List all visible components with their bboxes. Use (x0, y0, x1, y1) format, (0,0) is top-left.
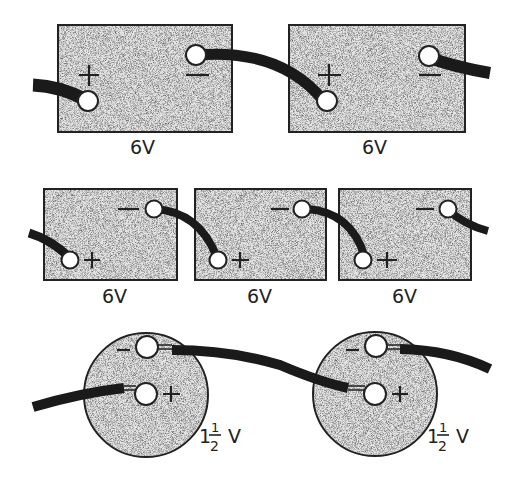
svg-text:2: 2 (210, 438, 219, 454)
terminal-minus-mid-1 (146, 201, 163, 218)
terminal-plus-bottom-1 (135, 383, 157, 405)
voltage-label: 6V (362, 136, 387, 158)
terminal-plus-mid-2 (210, 252, 227, 269)
battery-6v-top-2 (289, 25, 465, 132)
row-top: 6V 6V (33, 25, 490, 158)
svg-text:1: 1 (439, 420, 447, 435)
terminal-plus-mid-1 (62, 252, 79, 269)
svg-text:1: 1 (211, 420, 219, 435)
svg-text:2: 2 (438, 438, 447, 454)
terminal-minus-top-2 (419, 46, 439, 66)
voltage-label-1.5v: 1 1 2 V (427, 420, 469, 454)
svg-text:V: V (228, 425, 241, 447)
terminal-minus-mid-3 (440, 201, 457, 218)
terminal-plus-mid-3 (355, 252, 372, 269)
terminal-minus-mid-2 (294, 201, 311, 218)
voltage-label-1.5v: 1 1 2 V (199, 420, 241, 454)
terminal-plus-top-2 (317, 91, 337, 111)
terminal-minus-top-1 (186, 45, 206, 65)
terminal-plus-bottom-2 (364, 383, 386, 405)
voltage-label: 6V (392, 285, 417, 307)
terminal-minus-bottom-1 (136, 336, 158, 358)
row-middle: 6V 6V 6V (29, 189, 488, 307)
voltage-label: 6V (247, 285, 272, 307)
terminal-minus-bottom-2 (365, 335, 387, 357)
voltage-label: 6V (102, 285, 127, 307)
voltage-label: 6V (130, 136, 155, 158)
battery-series-diagram: 6V 6V 6V 6V 6V (0, 0, 519, 477)
svg-text:V: V (456, 425, 469, 447)
battery-6v-top-1 (58, 25, 232, 132)
terminal-plus-top-1 (78, 91, 98, 111)
row-bottom: 1 1 2 V 1 1 2 V (33, 332, 490, 457)
